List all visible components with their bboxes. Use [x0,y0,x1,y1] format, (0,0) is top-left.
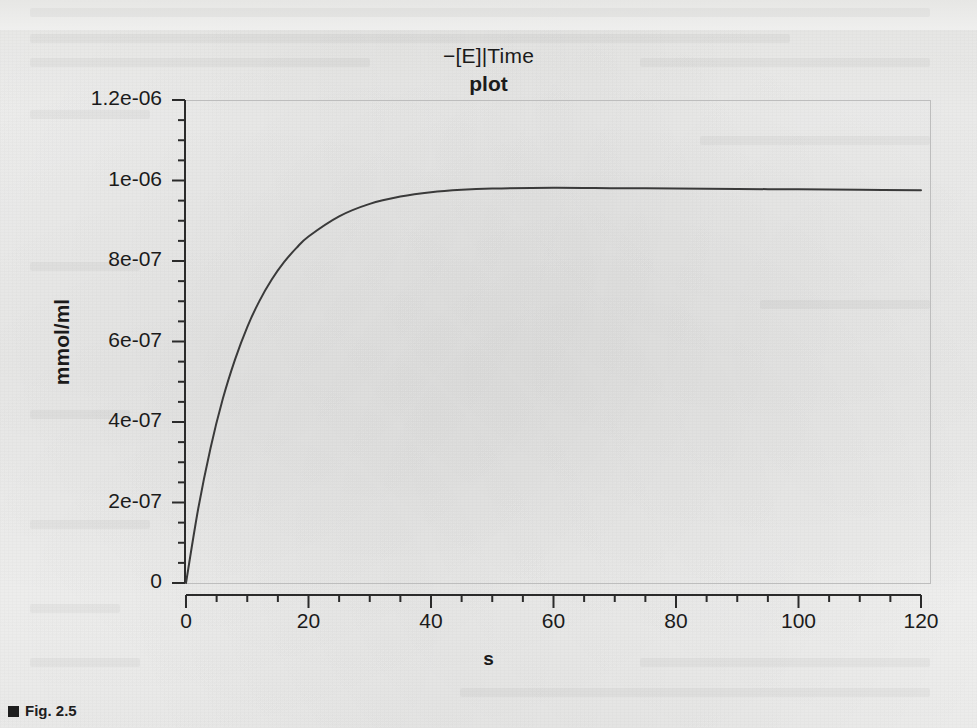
x-tick-label: 80 [631,609,721,633]
x-axis [186,595,921,608]
caption-square-icon [8,706,19,717]
x-tick-label: 120 [876,609,966,633]
figure-caption: Fig. 2.5 [8,702,77,719]
y-tick-label: 0 [12,569,162,593]
y-tick-label: 6e-07 [12,328,162,352]
y-axis [172,100,185,583]
plot-frame [186,101,931,584]
y-tick-label: 1e-06 [12,167,162,191]
y-tick-label: 4e-07 [12,408,162,432]
x-tick-label: 40 [386,609,476,633]
x-tick-label: 20 [264,609,354,633]
data-series-line [186,188,921,583]
y-tick-label: 8e-07 [12,247,162,271]
figure-chart: −[E]|Time plot mmol/ml s 02e-074e-076e-0… [0,0,977,728]
caption-text: Fig. 2.5 [25,702,77,719]
y-tick-label: 2e-07 [12,489,162,513]
x-tick-label: 60 [509,609,599,633]
x-tick-label: 0 [141,609,231,633]
y-tick-label: 1.2e-06 [12,86,162,110]
figure-caption-area: Fig. 2.5 [0,700,977,728]
x-tick-label: 100 [754,609,844,633]
